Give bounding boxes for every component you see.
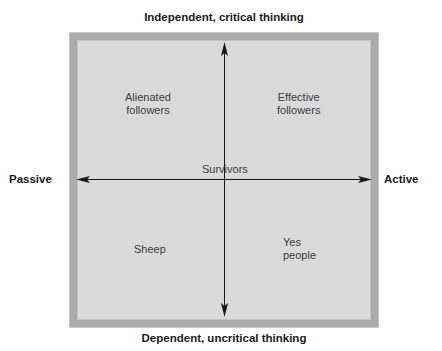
quadrant-alienated-followers: Alienated followers bbox=[125, 91, 171, 117]
quadrant-sheep: Sheep bbox=[134, 243, 166, 256]
quadrant-label-line: followers bbox=[277, 104, 320, 117]
quadrant-label-line: people bbox=[283, 249, 316, 262]
axis-label-right: Active bbox=[384, 173, 419, 185]
quadrant-label-line: Alienated bbox=[125, 91, 171, 104]
quadrant-effective-followers: Effective followers bbox=[277, 91, 320, 117]
quadrant-yes-people: Yes people bbox=[283, 236, 316, 262]
quadrant-label-line: Yes bbox=[283, 236, 316, 249]
quadrant-label-line: Effective bbox=[277, 91, 320, 104]
axis-label-left: Passive bbox=[9, 173, 52, 185]
axis-label-bottom: Dependent, uncritical thinking bbox=[0, 332, 442, 344]
quadrant-label-line: followers bbox=[125, 104, 171, 117]
center-survivors: Survivors bbox=[202, 163, 248, 176]
